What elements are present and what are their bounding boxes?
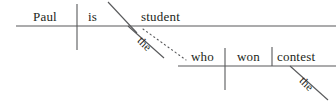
word-predicate-nominative-student: student [141,10,180,23]
word-direct-object-contest: contest [277,50,315,63]
sentence-diagram: Paul is student the who won contest the [0,0,336,108]
word-linking-verb-is: is [88,10,97,23]
predicate-nominative-slant [108,2,137,33]
word-relative-pronoun-who: who [191,50,214,63]
word-subject-paul: Paul [33,10,57,23]
word-verb-won: won [237,50,260,63]
